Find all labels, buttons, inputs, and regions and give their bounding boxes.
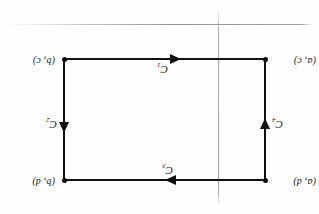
- curve-label-c3: C3: [162, 162, 173, 177]
- vertex-label-bottom-left: (b, d): [32, 177, 55, 188]
- curve-label-c1-subscript: 1: [157, 61, 161, 69]
- figure-canvas: (a, d) (b, d) (a, c) (b, c) C3 C4 C1 C2: [0, 0, 319, 214]
- vertex-dot-bd: [62, 178, 67, 183]
- vertex-label-bottom-right: (a, d): [293, 177, 316, 188]
- curve-label-c2-letter: C: [50, 119, 57, 131]
- vertex-dot-ac: [263, 57, 268, 62]
- scan-artifact-horizontal-line: [7, 24, 313, 25]
- curve-label-c4-subscript: 4: [272, 116, 276, 124]
- scan-artifact-vertical-line: [218, 9, 219, 205]
- arrowhead-c4: [260, 118, 270, 129]
- curve-label-c1-letter: C: [161, 64, 168, 76]
- curve-label-c1: C1: [157, 61, 168, 76]
- vertex-dot-bc: [62, 57, 67, 62]
- scan-rotation-wrapper: (a, d) (b, d) (a, c) (b, c) C3 C4 C1 C2: [0, 0, 319, 214]
- curve-label-c4: C4: [272, 116, 283, 131]
- curve-label-c4-letter: C: [276, 119, 283, 131]
- edge-c3-bottom: [63, 58, 266, 60]
- arrowhead-c2: [59, 122, 69, 133]
- vertex-label-top-right: (a, c): [294, 56, 316, 67]
- vertex-label-top-left: (b, c): [33, 56, 55, 67]
- arrowhead-c1: [170, 54, 181, 64]
- curve-label-c2: C2: [46, 116, 57, 131]
- vertex-dot-ad: [263, 178, 268, 183]
- curve-label-c3-letter: C: [166, 165, 173, 177]
- curve-label-c3-subscript: 3: [162, 162, 166, 170]
- curve-label-c2-subscript: 2: [46, 116, 50, 124]
- edge-c2-left: [63, 58, 65, 181]
